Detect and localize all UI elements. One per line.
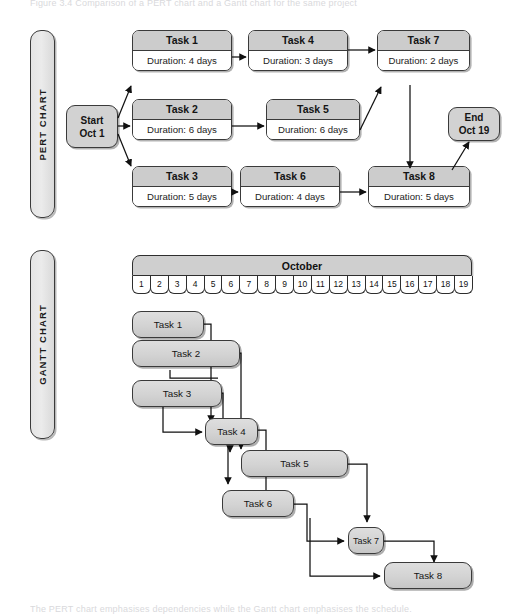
cropped-caption-top: Figure 3.4 Comparison of a PERT chart an… [30,0,500,8]
pert-node-start[interactable]: Start Oct 1 [66,105,118,148]
pert-node-task5-duration: Duration: 6 days [267,120,359,140]
gantt-bar-task7[interactable]: Task 7 [348,527,384,554]
gantt-bar-task8[interactable]: Task 8 [384,562,472,589]
pert-end-line1: End [465,111,484,124]
gantt-day-cell-10: 10 [293,276,312,294]
gantt-day-cell-13: 13 [347,276,366,294]
pert-node-task2[interactable]: Task 2 Duration: 6 days [132,99,232,140]
gantt-day-cell-19: 19 [454,276,473,294]
gantt-day-cell-4: 4 [186,276,205,294]
gantt-bar-task2[interactable]: Task 2 [132,340,240,367]
gantt-edge-task2-task3-hook [170,370,218,378]
section-label-pert-text: PERT CHART [37,88,48,160]
pert-node-task2-duration: Duration: 6 days [133,120,231,140]
gantt-day-cell-2: 2 [150,276,169,294]
pert-node-task3-duration: Duration: 5 days [133,187,231,207]
cropped-caption-bottom: The PERT chart emphasises dependencies w… [30,604,500,614]
gantt-connector-layer [0,0,526,614]
pert-node-task7-title: Task 7 [378,31,469,51]
pert-node-task8-title: Task 8 [369,167,469,187]
pert-start-line2: Oct 1 [79,127,104,140]
gantt-day-cell-8: 8 [257,276,276,294]
pert-node-task8[interactable]: Task 8 Duration: 5 days [368,166,470,207]
gantt-edge-task1-task4 [200,324,211,422]
edge-task5-task7 [360,87,381,130]
figure-canvas: Figure 3.4 Comparison of a PERT chart an… [0,0,526,614]
pert-connector-layer [0,0,526,614]
gantt-day-cell-11: 11 [311,276,330,294]
gantt-day-cell-14: 14 [365,276,384,294]
pert-end-line2: Oct 19 [459,124,490,137]
pert-node-task7[interactable]: Task 7 Duration: 2 days [377,30,470,71]
pert-node-end[interactable]: End Oct 19 [448,107,500,141]
gantt-day-cell-3: 3 [168,276,187,294]
gantt-edge-task5-task7 [348,464,367,522]
gantt-day-cell-15: 15 [382,276,401,294]
pert-node-task8-duration: Duration: 5 days [369,187,469,207]
section-label-gantt-text: GANTT CHART [37,304,48,385]
gantt-day-cell-9: 9 [275,276,294,294]
pert-node-task5-title: Task 5 [267,100,359,120]
edge-start-task1 [118,86,131,118]
pert-node-task6-duration: Duration: 4 days [241,187,339,207]
edge-start-task3 [118,134,131,166]
gantt-day-cell-6: 6 [221,276,240,294]
section-label-pert: PERT CHART [30,30,55,218]
gantt-edge-task7-task8 [384,541,434,562]
gantt-day-cell-7: 7 [239,276,258,294]
pert-node-task5[interactable]: Task 5 Duration: 6 days [266,99,360,140]
gantt-bar-task4[interactable]: Task 4 [205,418,258,445]
gantt-bar-task5[interactable]: Task 5 [241,450,348,477]
pert-node-task3[interactable]: Task 3 Duration: 5 days [132,166,232,207]
gantt-edge-task6-task7 [294,504,344,541]
pert-node-task1-title: Task 1 [133,31,231,51]
gantt-bar-task6[interactable]: Task 6 [222,490,294,517]
gantt-day-cell-18: 18 [436,276,455,294]
gantt-month-header: October [132,255,472,276]
pert-node-task6[interactable]: Task 6 Duration: 4 days [240,166,340,207]
gantt-day-scale: 12345678910111213141516171819 [132,276,472,294]
gantt-day-cell-17: 17 [418,276,437,294]
gantt-day-cell-1: 1 [132,276,151,294]
pert-node-task7-duration: Duration: 2 days [378,51,469,71]
pert-node-task4[interactable]: Task 4 Duration: 3 days [248,30,348,71]
gantt-day-cell-16: 16 [400,276,419,294]
section-label-gantt: GANTT CHART [30,250,55,439]
gantt-day-cell-5: 5 [204,276,223,294]
pert-node-task1-duration: Duration: 4 days [133,51,231,71]
pert-node-task4-title: Task 4 [249,31,347,51]
pert-start-line1: Start [81,114,104,127]
pert-node-task4-duration: Duration: 3 days [249,51,347,71]
pert-node-task6-title: Task 6 [241,167,339,187]
gantt-bar-task1[interactable]: Task 1 [132,311,204,338]
gantt-bar-task3[interactable]: Task 3 [132,380,222,407]
gantt-day-cell-12: 12 [329,276,348,294]
pert-node-task2-title: Task 2 [133,100,231,120]
pert-node-task3-title: Task 3 [133,167,231,187]
pert-node-task1[interactable]: Task 1 Duration: 4 days [132,30,232,71]
